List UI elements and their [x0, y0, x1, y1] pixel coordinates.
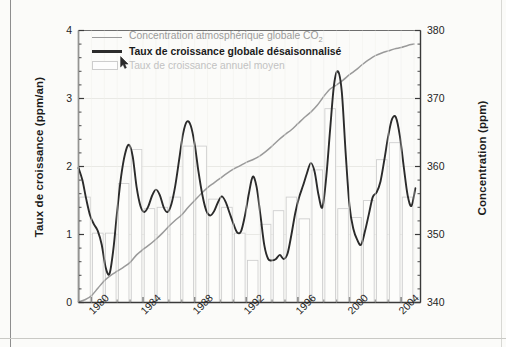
legend-label-concentration-subscript: 2	[318, 36, 322, 45]
left-tick-0: 0	[56, 296, 72, 308]
left-tick-3: 3	[56, 92, 72, 104]
legend-label-growth-deseasonalized: Taux de croissance globale désaisonnalis…	[129, 46, 341, 57]
right-tick-360: 360	[427, 160, 453, 172]
left-tick-2: 2	[56, 160, 72, 172]
left-tick-1: 1	[56, 228, 72, 240]
right-tick-350: 350	[427, 228, 453, 240]
right-tick-370: 370	[427, 92, 453, 104]
right-tick-340: 340	[427, 296, 453, 308]
legend-item-growth-deseasonalized: Taux de croissance globale désaisonnalis…	[92, 45, 341, 58]
legend-item-annual-mean: Taux de croissance annuel moyen	[92, 59, 341, 72]
left-axis-title: Taux de croissance (ppm/an)	[33, 32, 45, 282]
legend-item-concentration: Concentration atmosphérique globale CO2	[92, 31, 341, 44]
co2-growth-chart: Taux de croissance (ppm/an) Concentratio…	[0, 0, 506, 347]
right-axis-title: Concentration (ppm)	[476, 63, 488, 253]
right-tick-380: 380	[427, 24, 453, 36]
chart-legend: Concentration atmosphérique globale CO2 …	[92, 31, 341, 73]
legend-label-annual-mean: Taux de croissance annuel moyen	[129, 60, 285, 71]
left-tick-4: 4	[56, 24, 72, 36]
legend-label-concentration: Concentration atmosphérique globale CO	[129, 30, 318, 41]
figure-page: Taux de croissance (ppm/an) Concentratio…	[0, 0, 506, 347]
